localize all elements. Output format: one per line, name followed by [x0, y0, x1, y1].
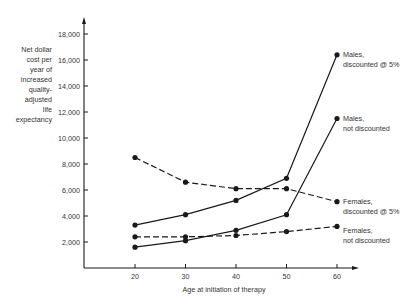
data-point-marker	[233, 198, 238, 203]
y-tick-label: 10,000	[58, 134, 80, 143]
data-point-marker	[284, 229, 289, 234]
data-point-marker	[183, 234, 188, 239]
y-axis-label-line: expectancy	[2, 115, 52, 125]
data-point-marker	[183, 180, 188, 185]
data-point-marker	[132, 234, 137, 239]
plot-area: 2,0004,0006,0008,00010,00012,00014,00016…	[0, 0, 416, 305]
series-label: Females,	[343, 226, 373, 235]
y-axis-label-line: life	[2, 105, 52, 115]
x-tick-label: 60	[333, 272, 341, 281]
data-point-marker	[132, 245, 137, 250]
y-axis-label-line: adjusted	[2, 95, 52, 105]
series-label: discounted @ 5%	[343, 60, 400, 69]
y-axis-label-line: quality-	[2, 85, 52, 95]
data-point-marker	[284, 186, 289, 191]
data-point-marker	[132, 223, 137, 228]
line-chart: Net dollar cost per year of increased qu…	[0, 0, 416, 305]
x-tick-label: 50	[283, 272, 291, 281]
series-label: Males,	[343, 114, 364, 123]
series-label: not discounted	[343, 236, 390, 245]
y-tick-label: 6,000	[62, 186, 80, 195]
series-label: Females,	[343, 197, 373, 206]
data-point-marker	[132, 155, 137, 160]
data-point-marker	[284, 176, 289, 181]
y-axis-arrow-icon	[82, 17, 86, 24]
y-tick-label: 8,000	[62, 160, 80, 169]
data-point-marker	[233, 228, 238, 233]
y-tick-label: 16,000	[58, 56, 80, 65]
series-label: Males,	[343, 50, 364, 59]
y-axis-label-line: increased	[2, 75, 52, 85]
data-point-marker	[334, 224, 339, 229]
y-tick-label: 4,000	[62, 212, 80, 221]
y-tick-label: 18,000	[58, 30, 80, 39]
y-tick-label: 12,000	[58, 108, 80, 117]
x-axis-label: Age at initiation of therapy	[182, 285, 266, 294]
x-tick-label: 40	[232, 272, 240, 281]
series-label: not discounted	[343, 124, 390, 133]
data-point-marker	[284, 212, 289, 217]
y-tick-label: 14,000	[58, 82, 80, 91]
data-point-marker	[334, 199, 339, 204]
x-axis-arrow-icon	[352, 266, 359, 270]
data-point-marker	[233, 233, 238, 238]
y-axis-label-line: Net dollar	[2, 45, 52, 55]
y-axis-label-line: cost per	[2, 55, 52, 65]
y-tick-label: 2,000	[62, 238, 80, 247]
data-point-marker	[183, 212, 188, 217]
x-tick-label: 30	[182, 272, 190, 281]
data-point-marker	[334, 52, 339, 57]
series-line	[135, 158, 337, 202]
series-label: discounted @ 5%	[343, 207, 400, 216]
y-axis-label: Net dollar cost per year of increased qu…	[2, 45, 52, 125]
data-point-marker	[334, 116, 339, 121]
x-tick-label: 20	[131, 272, 139, 281]
data-point-marker	[233, 186, 238, 191]
y-axis-label-line: year of	[2, 65, 52, 75]
